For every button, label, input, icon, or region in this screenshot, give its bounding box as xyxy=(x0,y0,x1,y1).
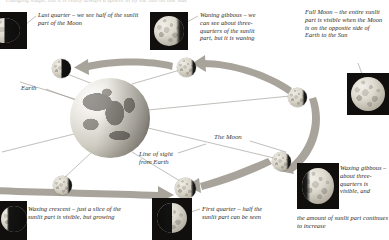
orbit-arrow-top-right xyxy=(192,55,292,94)
caption-waning-gibbous: Waning gibbous – we can see about three-… xyxy=(200,11,262,42)
moon-disc xyxy=(157,203,187,233)
orbit-moon-first-quarter xyxy=(175,178,196,199)
leader-the-moon xyxy=(250,141,286,152)
moon-shadow xyxy=(1,206,27,232)
orbit-moon-waxing-crescent xyxy=(53,176,72,195)
moon-shadow xyxy=(272,152,291,171)
moon-shadow xyxy=(53,176,72,195)
moon-disc xyxy=(302,168,334,204)
leader-waning-gibbous xyxy=(187,16,198,22)
orbit-arrow-bottom-right xyxy=(186,158,272,193)
moon-phases-diagram: changing shape, but it is really always … xyxy=(0,0,389,240)
moon-disc xyxy=(154,16,184,46)
caption-last-quarter: Last quarter – we see half of the sunlit… xyxy=(38,11,146,27)
thumbnail-full-moon xyxy=(347,73,389,115)
moon-disc xyxy=(0,18,20,43)
caption-full-moon: Full Moon – the entire sunlit part is vi… xyxy=(305,8,385,39)
moon-shadow xyxy=(0,18,20,43)
moon-shadow xyxy=(351,77,385,111)
label-the-moon: The Moon xyxy=(214,133,242,141)
moon-shadow xyxy=(154,16,184,46)
thumbnail-first-quarter xyxy=(152,198,192,240)
orbit-moon-full xyxy=(288,88,307,107)
moon-shadow xyxy=(288,88,307,107)
orbit-arrow-top-left xyxy=(74,59,173,75)
moon-shadow xyxy=(157,203,187,233)
label-earth: Earth xyxy=(21,84,36,92)
moon-disc xyxy=(1,206,27,232)
moon-shadow xyxy=(177,58,196,77)
moon-shadow xyxy=(175,178,196,199)
earth-terminator xyxy=(70,78,150,158)
caption-waxing-crescent: Waxing crescent – just a slice of the su… xyxy=(28,205,132,221)
caption-first-quarter: First quarter – half the sunlit part can… xyxy=(202,205,272,221)
caption-waxing-gibbous-tail: the amount of sunlit part continues to i… xyxy=(297,214,389,230)
leader-line-of-sight xyxy=(178,144,206,153)
thumbnail-waxing-gibbous xyxy=(297,163,339,209)
moon-disc xyxy=(351,77,385,111)
orbit-moon-waxing-gibbous xyxy=(272,152,291,171)
thumbnail-waning-gibbous xyxy=(150,12,188,50)
earth-globe xyxy=(70,78,150,158)
caption-waxing-gibbous-lead: Waxing gibbous – about three-quarters is… xyxy=(340,164,388,195)
label-line-of-sight: Line of sight from Earth xyxy=(139,150,173,167)
sight-line-full xyxy=(148,96,290,110)
orbit-moon-last-quarter xyxy=(52,59,71,78)
thumbnail-waxing-crescent xyxy=(0,201,27,240)
moon-shadow xyxy=(302,168,334,204)
sight-line-west xyxy=(2,134,74,152)
moon-shadow xyxy=(52,59,71,78)
orbit-moon-waning-gibbous xyxy=(177,58,196,77)
thumbnail-last-quarter xyxy=(0,12,27,49)
